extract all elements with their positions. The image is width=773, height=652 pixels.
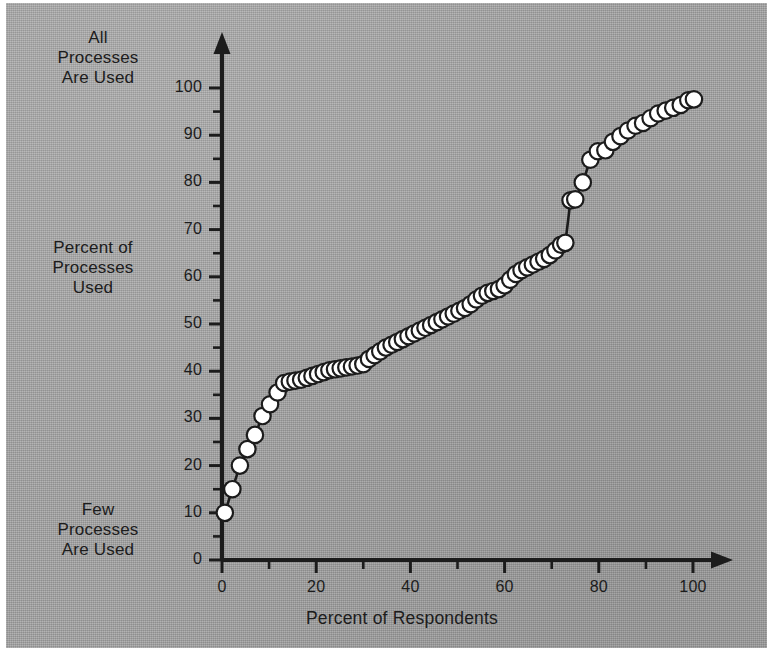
data-point-marker bbox=[567, 191, 583, 207]
x-axis-arrowhead bbox=[711, 552, 733, 569]
tick-marks-group bbox=[209, 88, 693, 573]
chart-page: AllProcessesAre Used Percent ofProcesses… bbox=[0, 0, 773, 652]
data-point-marker bbox=[232, 457, 248, 473]
data-point-marker bbox=[224, 481, 240, 497]
data-point-marker bbox=[686, 91, 702, 107]
chart-canvas bbox=[0, 0, 773, 652]
data-point-marker bbox=[575, 174, 591, 190]
data-point-marker bbox=[217, 505, 233, 521]
data-point-marker bbox=[247, 427, 263, 443]
y-axis-arrowhead bbox=[214, 32, 231, 54]
series-markers-group bbox=[217, 91, 703, 521]
data-point-marker bbox=[557, 235, 573, 251]
